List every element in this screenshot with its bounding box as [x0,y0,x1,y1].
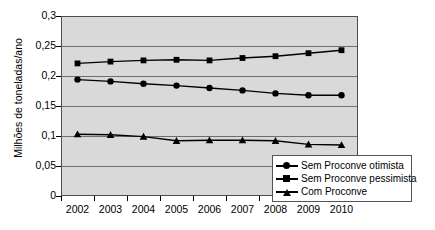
data-point [173,82,179,88]
legend-marker-triangle-icon [276,186,298,198]
data-point [75,61,81,67]
legend-marker-glyph [283,175,290,182]
y-axis-tick-mark [56,136,61,137]
series-circle [74,76,344,98]
chart-legend: Sem Proconve otimistaSem Proconve pessim… [272,155,412,202]
data-point [306,50,312,56]
legend-marker-square-icon [276,173,298,185]
data-point [207,58,213,64]
y-axis-tick-mark [56,76,61,77]
y-axis-tick-labels: 00,050,10,150,20,250,3 [18,0,56,230]
y-axis-tick-mark [56,166,61,167]
x-axis-tick-mark [127,196,128,201]
y-axis-tick-label: 0,1 [22,130,56,140]
y-axis-tick-label: 0,25 [22,40,56,50]
data-point [140,81,146,87]
data-point [240,55,246,61]
y-axis-tick-label: 0,15 [22,100,56,110]
data-point [272,90,278,96]
data-point [74,76,80,82]
data-point [107,78,113,84]
legend-item: Sem Proconve pessimista [276,172,407,185]
legend-item: Com Proconve [276,185,407,198]
data-point [338,92,344,98]
legend-marker-glyph [283,189,291,196]
legend-marker-circle-icon [276,160,298,172]
x-axis-tick-mark [259,196,260,201]
y-axis-tick-mark [56,106,61,107]
x-axis-tick-mark [61,196,62,201]
x-axis-tick-label: 2010 [320,203,364,215]
legend-marker-glyph [283,162,290,169]
x-axis-tick-mark [226,196,227,201]
series-triangle [74,130,346,148]
data-point [305,92,311,98]
legend-item-label: Sem Proconve otimista [298,160,404,171]
x-axis-tick-mark [160,196,161,201]
data-point [339,47,345,53]
y-axis-tick-label: 0,3 [22,10,56,20]
y-axis-tick-label: 0,05 [22,160,56,170]
y-axis-tick-label: 0 [22,190,56,200]
legend-item-label: Com Proconve [298,186,367,197]
data-point [141,58,147,64]
legend-item: Sem Proconve otimista [276,159,407,172]
x-axis-tick-mark [193,196,194,201]
series-square [75,47,345,66]
x-axis-tick-mark [94,196,95,201]
data-point [273,53,279,59]
y-axis-tick-mark [56,196,61,197]
chart-figure: Milhões de toneladas/ano 00,050,10,150,2… [0,0,435,230]
data-point [108,59,114,65]
y-axis-tick-mark [56,46,61,47]
data-point [174,57,180,63]
data-point [239,87,245,93]
data-point [206,85,212,91]
y-axis-tick-mark [56,16,61,17]
y-axis-tick-label: 0,2 [22,70,56,80]
legend-item-label: Sem Proconve pessimista [298,173,417,184]
